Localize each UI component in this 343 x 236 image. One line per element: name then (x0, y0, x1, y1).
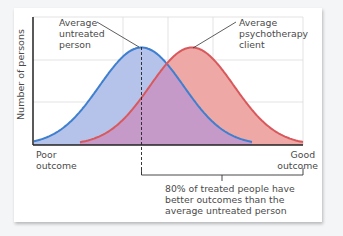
y-axis-label: Number of persons (15, 29, 26, 120)
good-outcome-label: Good outcome (277, 149, 318, 171)
poor-outcome-label: Poor outcome (36, 149, 77, 171)
percentage-annotation: 80% of treated people have better outcom… (165, 183, 298, 216)
distribution-chart: Number of persons Average untreated pers… (0, 0, 343, 236)
client-annotation: Average psychotherapy client (239, 17, 311, 50)
untreated-annotation: Average untreated person (59, 17, 108, 50)
client-leader (193, 22, 236, 48)
